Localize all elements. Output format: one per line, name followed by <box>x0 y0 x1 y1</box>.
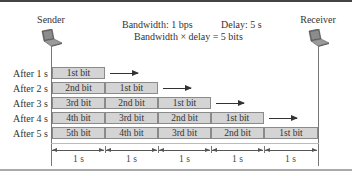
arrow-right-icon <box>269 118 297 119</box>
bottom-border <box>0 169 352 171</box>
bandwidth-delay-product: Bandwidth × delay = 5 bits <box>134 31 243 43</box>
dimension-arrow <box>212 150 263 151</box>
bit-cell: 2nd bit <box>105 97 158 109</box>
dimension-arrow <box>52 150 104 151</box>
tick <box>318 146 319 153</box>
row-label: After 1 s <box>4 67 48 80</box>
guide-line <box>51 143 319 144</box>
interval-label: 1 s <box>158 154 211 164</box>
bit-cell: 3rd bit <box>105 112 158 124</box>
bit-cell: 3rd bit <box>158 127 211 139</box>
row-label: After 2 s <box>4 82 48 95</box>
bit-cell: 1st bit <box>211 112 264 124</box>
bit-cell: 5th bit <box>52 127 105 139</box>
arrow-right-icon <box>216 103 244 104</box>
row-label: After 3 s <box>4 97 48 110</box>
receiver-node: Receiver <box>293 14 343 25</box>
arrow-right-icon <box>110 73 138 74</box>
bit-cell: 1st bit <box>264 127 318 139</box>
bit-cell: 3rd bit <box>52 97 105 109</box>
dimension-arrow <box>106 150 157 151</box>
delay-label: Delay: 5 s <box>221 19 262 31</box>
row-label: After 5 s <box>4 127 48 140</box>
top-border <box>0 0 352 2</box>
bit-cell: 2nd bit <box>158 112 211 124</box>
bit-cell: 4th bit <box>52 112 105 124</box>
bit-cell: 4th bit <box>105 127 158 139</box>
bit-cell: 1st bit <box>52 67 105 79</box>
bandwidth-label: Bandwidth: 1 bps <box>122 19 193 31</box>
bit-cell: 1st bit <box>158 97 211 109</box>
interval-label: 1 s <box>264 154 317 164</box>
sender-node: Sender <box>26 14 76 25</box>
dimension-arrow <box>265 150 317 151</box>
receiver-label: Receiver <box>300 14 336 25</box>
row-label: After 4 s <box>4 112 48 125</box>
interval-label: 1 s <box>52 154 105 164</box>
interval-label: 1 s <box>105 154 158 164</box>
interval-label: 1 s <box>211 154 264 164</box>
bit-cell: 2nd bit <box>52 82 105 94</box>
bit-cell: 1st bit <box>105 82 158 94</box>
arrow-right-icon <box>163 88 191 89</box>
bit-cell: 2nd bit <box>211 127 264 139</box>
sender-label: Sender <box>37 14 65 25</box>
dimension-arrow <box>159 150 210 151</box>
